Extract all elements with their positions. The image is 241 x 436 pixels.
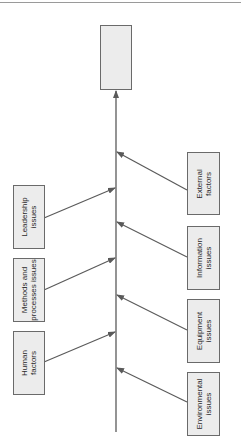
cause-box-external-factors: External factors — [187, 152, 220, 215]
effect-box — [100, 25, 132, 90]
cause-label: Methods and processes issues — [20, 257, 38, 323]
arrow-information-issues — [117, 222, 187, 257]
cause-box-leadership: Leadership issues — [13, 185, 45, 249]
cause-label: Equipment issues — [195, 300, 213, 362]
cause-box-environmental-issues: Environmental issues — [187, 372, 220, 436]
cause-box-equipment-issues: Equipment issues — [187, 299, 220, 363]
cause-label: External factors — [195, 153, 213, 215]
arrow-equipment-issues — [117, 295, 187, 330]
arrow-external-factors — [117, 152, 187, 190]
cause-label: Human factors — [20, 332, 38, 394]
cause-label: Information issues — [195, 227, 213, 289]
cause-box-methods-processes: Methods and processes issues — [13, 258, 45, 322]
cause-label: Leadership issues — [20, 186, 38, 248]
arrow-human-factors — [44, 332, 115, 362]
cause-label: Environmental issues — [195, 373, 213, 435]
arrow-methods-processes — [44, 258, 115, 290]
arrow-leadership-issues — [44, 188, 115, 218]
cause-box-information-issues: Information issues — [187, 226, 220, 290]
arrow-environmental-issues — [117, 368, 187, 402]
cause-box-human-factors: Human factors — [13, 331, 45, 395]
